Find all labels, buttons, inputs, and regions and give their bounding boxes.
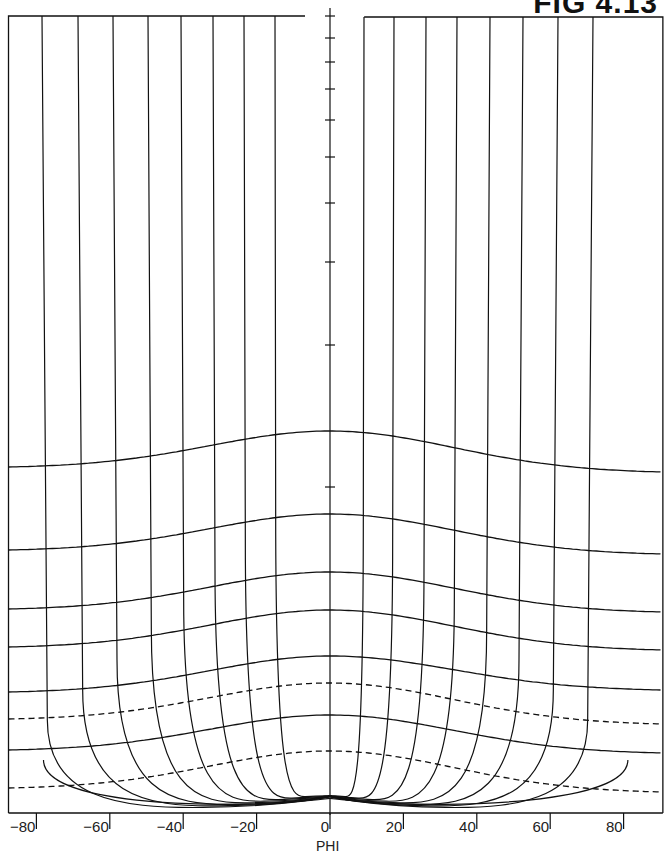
x-tick-label: −40 [157, 818, 182, 835]
meridian-lines [42, 16, 628, 808]
central-axis [325, 8, 335, 815]
meridian-line [329, 17, 426, 800]
meridian-line [329, 17, 490, 803]
x-tick-label: 80 [606, 818, 623, 835]
x-tick-label: 40 [459, 818, 476, 835]
parallel-curve [9, 431, 661, 472]
meridian-line [113, 16, 331, 804]
meridian-line [322, 760, 628, 804]
meridian-line [244, 16, 331, 798]
parallel-curve [9, 715, 661, 753]
x-axis-label: PHI [316, 838, 339, 854]
parallel-curve [9, 656, 661, 692]
parallel-curve-dashed [9, 683, 661, 724]
frame-left [9, 16, 306, 813]
meridian-line [213, 16, 331, 800]
meridian-line [148, 16, 331, 803]
parallel-curve [9, 610, 661, 650]
parallel-curve [9, 572, 661, 612]
x-tick-label: 60 [533, 818, 550, 835]
x-tick-label: 0 [321, 818, 329, 835]
x-tick-label: −20 [230, 818, 255, 835]
parallel-curve-dashed [9, 751, 661, 792]
frame-right [364, 17, 663, 813]
plot-frame [9, 16, 663, 813]
x-tick-label: −80 [10, 818, 35, 835]
meridian-line [275, 16, 331, 797]
x-tick-label: 20 [386, 818, 403, 835]
parallel-curve [9, 514, 661, 554]
parallel-curves [9, 431, 661, 792]
chart-canvas [0, 0, 668, 859]
x-tick-label: −60 [83, 818, 108, 835]
meridian-line [328, 17, 364, 797]
